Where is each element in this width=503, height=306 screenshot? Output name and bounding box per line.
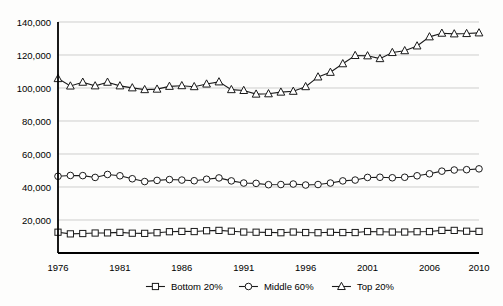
data-point-circle-marker	[240, 180, 247, 187]
data-point-circle-marker	[315, 181, 322, 188]
data-point-triangle-marker	[178, 81, 186, 88]
data-point-triangle-marker	[338, 282, 346, 289]
chart-legend: Bottom 20%Middle 60%Top 20%	[146, 281, 395, 292]
axis-lines	[58, 22, 479, 253]
data-point-circle-marker	[166, 176, 173, 183]
data-point-circle-marker	[141, 178, 148, 185]
data-point-circle-marker	[179, 177, 186, 184]
data-point-circle-marker	[290, 181, 297, 188]
x-axis-tick-label: 2001	[357, 262, 378, 273]
data-point-square-marker	[290, 229, 296, 235]
x-axis-tick-label: 1981	[109, 262, 130, 273]
data-point-circle-marker	[67, 172, 74, 179]
data-point-square-marker	[278, 230, 284, 236]
y-axis-tick-label: 120,000	[17, 50, 51, 61]
data-point-square-marker	[80, 230, 86, 236]
data-point-triangle-marker	[79, 78, 87, 85]
legend-item-bottom-20[interactable]: Bottom 20%	[146, 281, 223, 292]
legend-item-label: Middle 60%	[264, 281, 314, 292]
data-point-square-marker	[216, 227, 222, 233]
data-point-square-marker	[228, 228, 234, 234]
data-point-circle-marker	[117, 172, 124, 179]
data-point-circle-marker	[92, 174, 99, 181]
y-axis-tick-label: 140,000	[17, 17, 51, 28]
data-point-square-marker	[152, 283, 158, 289]
data-point-square-marker	[67, 231, 73, 237]
data-point-square-marker	[340, 229, 346, 235]
data-point-circle-marker	[426, 171, 433, 178]
y-axis-tick-labels: 20,00040,00060,00080,000100,000120,00014…	[17, 17, 51, 226]
data-point-square-marker	[303, 229, 309, 235]
data-point-square-marker	[241, 229, 247, 235]
data-point-square-marker	[352, 229, 358, 235]
data-point-square-marker	[191, 228, 197, 234]
data-point-circle-marker	[439, 168, 446, 175]
data-point-circle-marker	[129, 175, 136, 182]
x-axis-tick-label: 1991	[233, 262, 254, 273]
gridlines-group	[58, 22, 479, 220]
series-markers-middle-60	[55, 166, 483, 189]
y-axis-tick-label: 100,000	[17, 83, 51, 94]
data-point-circle-marker	[364, 174, 371, 181]
data-point-circle-marker	[327, 180, 334, 187]
data-point-square-marker	[142, 230, 148, 236]
x-axis-tick-label: 1976	[47, 262, 68, 273]
chart-container: 20,00040,00060,00080,000100,000120,00014…	[0, 0, 503, 306]
data-point-circle-marker	[302, 182, 309, 189]
data-point-square-marker	[117, 229, 123, 235]
plot-markers-group	[54, 29, 483, 237]
data-point-square-marker	[402, 229, 408, 235]
legend-item-middle-60[interactable]: Middle 60%	[239, 281, 314, 292]
data-point-square-marker	[179, 228, 185, 234]
data-point-triangle-marker	[215, 78, 223, 85]
x-axis-tick-label: 1996	[295, 262, 316, 273]
data-point-square-marker	[166, 229, 172, 235]
data-point-circle-marker	[191, 177, 198, 184]
data-point-circle-marker	[401, 174, 408, 181]
data-point-circle-marker	[352, 177, 359, 184]
data-point-triangle-marker	[413, 42, 421, 49]
legend-item-top-20[interactable]: Top 20%	[332, 281, 395, 292]
data-point-circle-marker	[463, 166, 470, 173]
data-point-square-marker	[265, 229, 271, 235]
data-point-circle-marker	[389, 174, 396, 181]
plot-lines-group	[58, 33, 479, 234]
x-axis-tick-label: 1986	[171, 262, 192, 273]
data-point-square-marker	[203, 228, 209, 234]
data-point-square-marker	[377, 229, 383, 235]
data-point-circle-marker	[228, 178, 235, 185]
data-point-square-marker	[315, 230, 321, 236]
x-axis-tick-label: 2006	[419, 262, 440, 273]
data-point-circle-marker	[216, 175, 223, 182]
line-chart: 20,00040,00060,00080,000100,000120,00014…	[0, 0, 503, 306]
data-point-circle-marker	[278, 181, 285, 188]
data-point-square-marker	[476, 228, 482, 234]
data-point-triangle-marker	[227, 85, 235, 92]
data-point-triangle-marker	[475, 29, 483, 36]
data-point-square-marker	[104, 230, 110, 236]
data-point-triangle-marker	[104, 78, 112, 85]
series-markers-bottom-20	[55, 227, 482, 237]
data-point-circle-marker	[253, 180, 260, 187]
data-point-circle-marker	[339, 178, 346, 185]
y-axis-tick-label: 20,000	[22, 215, 51, 226]
legend-item-label: Top 20%	[357, 281, 395, 292]
data-point-circle-marker	[476, 166, 483, 173]
y-axis-tick-label: 80,000	[22, 116, 51, 127]
data-point-square-marker	[327, 229, 333, 235]
data-point-circle-marker	[104, 171, 111, 178]
data-point-square-marker	[253, 229, 259, 235]
data-point-square-marker	[451, 227, 457, 233]
data-point-triangle-marker	[339, 60, 347, 67]
data-point-circle-marker	[451, 167, 458, 174]
data-point-square-marker	[154, 230, 160, 236]
data-point-square-marker	[439, 227, 445, 233]
data-point-circle-marker	[265, 181, 272, 188]
y-axis-tick-label: 60,000	[22, 149, 51, 160]
data-point-circle-marker	[414, 172, 421, 179]
data-point-circle-marker	[154, 177, 161, 184]
data-point-square-marker	[414, 229, 420, 235]
data-point-circle-marker	[245, 283, 252, 290]
data-point-square-marker	[426, 228, 432, 234]
x-axis-tick-labels: 19761981198619911996200120062010	[47, 262, 489, 273]
